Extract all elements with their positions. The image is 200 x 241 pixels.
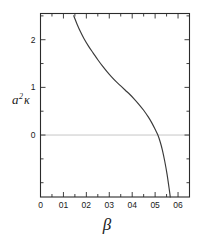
y-tick-label: 2: [31, 35, 36, 45]
x-tick-label: 06: [173, 200, 183, 210]
x-tick-label: 05: [150, 200, 160, 210]
x-tick-label: 02: [82, 200, 92, 210]
x-tick-label: 04: [127, 200, 137, 210]
y-axis-title-kappa: κ: [24, 93, 30, 107]
y-tick-label: 0: [31, 130, 36, 140]
y-axis-title-superscript: 2: [19, 92, 23, 101]
x-axis-title: β: [102, 215, 112, 234]
x-tick-label: 03: [105, 200, 115, 210]
x-tick-label: 0: [38, 200, 43, 210]
y-tick-label: 1: [31, 82, 36, 92]
plot-figure: 0010203040506 210 β a 2 κ: [0, 0, 200, 241]
y-axis-title-base: a: [12, 92, 19, 107]
x-tick-label: 01: [59, 200, 69, 210]
